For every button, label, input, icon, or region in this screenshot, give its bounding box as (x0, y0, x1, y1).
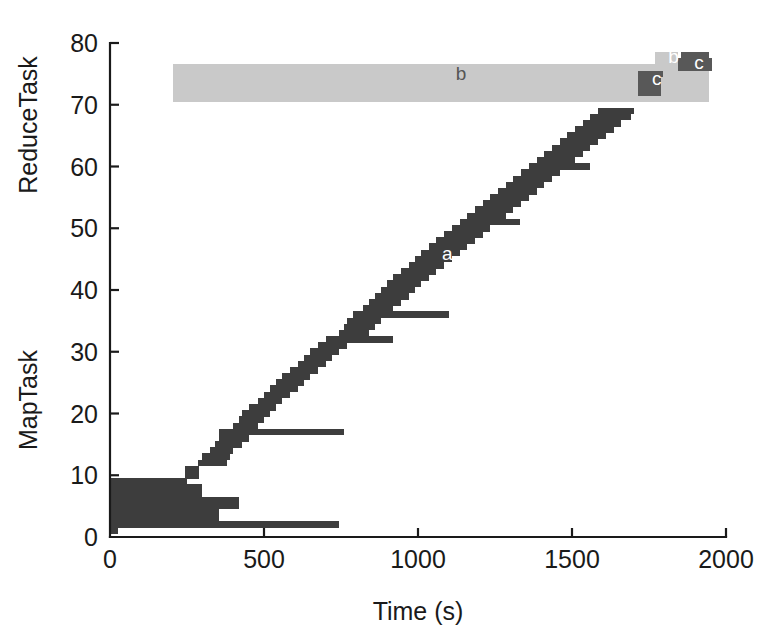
task-bar (353, 311, 448, 318)
task-bar (110, 490, 202, 497)
task-bar (110, 521, 339, 528)
task-bar (173, 71, 709, 78)
task-bar (583, 120, 622, 127)
task-bar (460, 219, 520, 226)
task-bar (282, 373, 310, 380)
task-bar (270, 385, 298, 392)
task-bar (219, 429, 344, 436)
task-bar (173, 83, 709, 90)
task-bar (310, 348, 339, 355)
task-bar (276, 379, 304, 386)
task-bar (185, 466, 199, 473)
task-bar (483, 200, 522, 207)
task-bar (258, 398, 283, 405)
task-bar (444, 231, 483, 238)
task-bar (110, 527, 118, 534)
task-bar (475, 206, 513, 213)
task-bar (110, 484, 202, 491)
task-bar (452, 225, 491, 232)
task-bar (110, 478, 187, 485)
task-bar (110, 515, 219, 522)
y-tick-label: 0 (84, 523, 98, 551)
task-bar (185, 472, 199, 479)
task-bar (210, 447, 233, 454)
task-bar (575, 126, 614, 133)
bar-annotation-c: c (652, 68, 662, 89)
task-bar (490, 194, 529, 201)
task-bar (173, 95, 709, 102)
task-bar (638, 89, 661, 96)
task-bar (344, 324, 375, 331)
task-bar (110, 509, 219, 516)
task-bar (387, 280, 421, 287)
task-bar (219, 435, 248, 442)
task-bar (298, 361, 326, 368)
task-bar (498, 188, 536, 195)
task-bar (347, 318, 381, 325)
y-tick-label: 10 (70, 461, 98, 489)
task-bar (560, 138, 599, 145)
task-bar (369, 299, 401, 306)
task-bar (529, 163, 591, 170)
task-bar (318, 342, 347, 349)
bar-annotation-b: b (668, 46, 679, 67)
y-tick-label: 80 (70, 29, 98, 57)
y-axis-title-reducetask: ReduceTask (14, 56, 42, 194)
task-bar (173, 89, 709, 96)
x-tick-label: 500 (243, 545, 285, 573)
task-bar (110, 497, 239, 504)
task-bar (326, 336, 394, 343)
task-bar (375, 293, 409, 300)
x-tick-label: 0 (103, 545, 117, 573)
task-bar (215, 441, 243, 448)
task-bar (590, 114, 630, 121)
task-bar (363, 305, 394, 312)
x-tick-label: 1000 (390, 545, 446, 573)
y-tick-label: 60 (70, 153, 98, 181)
task-bar (381, 287, 415, 294)
task-bar (202, 453, 230, 460)
task-bar (513, 176, 552, 183)
task-bar (409, 262, 444, 269)
task-bar (393, 274, 428, 281)
task-bar (249, 404, 277, 411)
task-bar (173, 77, 709, 84)
x-tick-label: 2000 (698, 545, 754, 573)
task-bar (198, 460, 227, 467)
y-tick-label: 50 (70, 214, 98, 242)
task-bar (567, 132, 606, 139)
y-tick-label: 20 (70, 400, 98, 428)
task-bar (467, 213, 506, 220)
task-bar (506, 182, 545, 189)
task-bar (421, 250, 460, 257)
bar-annotation-c: c (694, 52, 704, 73)
task-bar (544, 151, 583, 158)
chart-figure: abbcc 010203040506070800500100015002000 … (0, 0, 774, 640)
bar-annotation-b: b (456, 63, 467, 84)
y-tick-label: 40 (70, 276, 98, 304)
task-bar (552, 145, 591, 152)
task-bar (290, 367, 318, 374)
task-bar (521, 169, 560, 176)
bar-annotation-a: a (442, 243, 453, 264)
task-bar (239, 416, 264, 423)
y-tick-label: 70 (70, 91, 98, 119)
task-bar (110, 503, 239, 510)
task-bar (173, 64, 709, 71)
x-axis-title: Time (s) (373, 597, 464, 625)
y-axis-title-maptask: MapTask (14, 349, 42, 450)
x-tick-label: 1500 (544, 545, 600, 573)
task-timeline-chart: abbcc 010203040506070800500100015002000 … (0, 0, 774, 640)
task-bar (537, 157, 576, 164)
task-bar (242, 410, 270, 417)
task-bar (304, 355, 332, 362)
task-bar (339, 330, 368, 337)
y-tick-label: 30 (70, 338, 98, 366)
task-bar (401, 268, 436, 275)
task-bar (233, 423, 258, 430)
task-bar (264, 392, 290, 399)
task-bar (598, 108, 633, 115)
